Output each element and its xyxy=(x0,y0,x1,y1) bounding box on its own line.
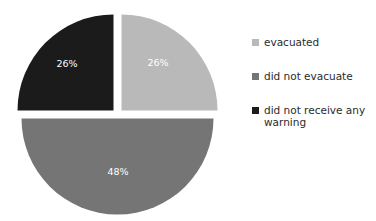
legend-item-no-warning[interactable]: did not receive any warning xyxy=(252,104,374,128)
legend-label-did-not-evacuate: did not evacuate xyxy=(264,70,353,82)
chart-legend: evacuated did not evacuate did not recei… xyxy=(252,36,374,150)
pie-chart-plot-area: 26% 26% 48% xyxy=(0,0,240,221)
legend-label-no-warning: did not receive any warning xyxy=(264,104,365,128)
pie-slice-label-evacuated: 26% xyxy=(147,57,168,68)
legend-swatch-icon-did-not-evacuate xyxy=(252,73,259,80)
pie-chart-figure: 26% 26% 48% evacuated did not evacuate d… xyxy=(0,0,376,221)
pie-slice-label-did-not-evacuate: 48% xyxy=(107,166,128,177)
legend-item-evacuated[interactable]: evacuated xyxy=(252,36,374,48)
pie-chart-svg: 26% 26% 48% xyxy=(0,0,240,221)
pie-slice-label-no-warning: 26% xyxy=(56,58,77,69)
legend-label-evacuated: evacuated xyxy=(264,36,319,48)
legend-swatch-icon-no-warning xyxy=(252,107,259,114)
legend-swatch-icon-evacuated xyxy=(252,39,259,46)
pie-slice-evacuated[interactable] xyxy=(122,15,218,111)
legend-item-did-not-evacuate[interactable]: did not evacuate xyxy=(252,70,374,82)
